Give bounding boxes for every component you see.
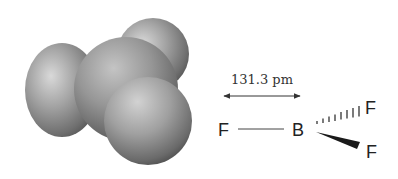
atom-upper-right-f: F <box>365 98 376 118</box>
bf3-figure: 131.3 pm F B F F <box>0 0 398 179</box>
fluorine-front-sphere <box>104 77 192 165</box>
bf3-diagram: 131.3 pm F B F F <box>0 0 398 179</box>
bond-length-annotation: 131.3 pm <box>224 72 300 96</box>
hashed-bond <box>317 106 359 124</box>
atom-center-b: B <box>292 120 304 140</box>
bond-length-label: 131.3 pm <box>231 72 293 87</box>
wedge-bond <box>316 132 360 149</box>
atom-lower-right-f: F <box>366 142 377 162</box>
space-filling-model <box>25 18 192 165</box>
structural-formula: F B F F <box>218 98 377 162</box>
atom-left-f: F <box>218 120 229 140</box>
